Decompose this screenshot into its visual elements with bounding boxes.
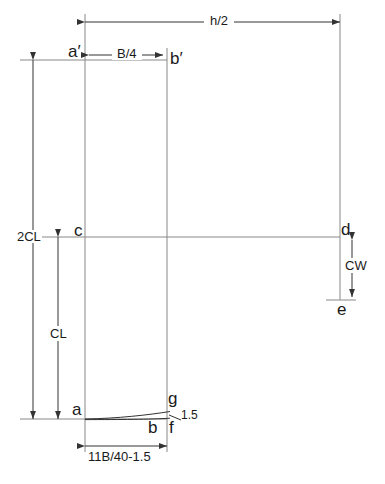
point-label-e: e (337, 301, 346, 318)
point-label-c: c (74, 222, 83, 239)
curve-upper-a-g (85, 412, 170, 420)
point-label-g: g (168, 390, 177, 407)
point-label-a-prime: a′ (68, 43, 81, 60)
dimension-label-cl: CL (47, 326, 70, 341)
point-label-b: b (148, 419, 157, 436)
point-label-b-prime: b′ (170, 50, 183, 67)
dimension-label-2cl: 2CL (16, 230, 42, 243)
dimension-label-h2: h/2 (204, 14, 234, 27)
dimension-label-bottom: 11B/40-1.5 (88, 450, 151, 463)
construction-lines (20, 14, 356, 452)
diagram-canvas: a′ b′ c d e a b f g h/2 B/4 2CL CL CW 11… (0, 0, 385, 484)
point-label-f: f (169, 419, 174, 436)
dimension-label-corner-1point5: 1.5 (181, 409, 198, 421)
dimension-label-cw: CW (343, 258, 369, 273)
dimension-label-b4: B/4 (112, 47, 142, 60)
point-label-d: d (341, 221, 350, 238)
point-label-a: a (72, 401, 81, 418)
